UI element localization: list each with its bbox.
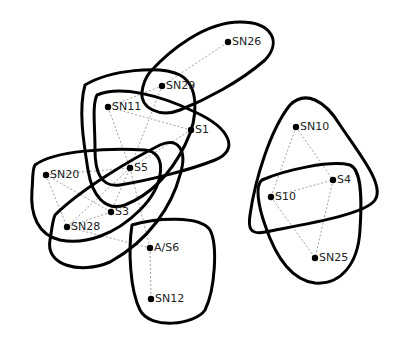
edge-sn10-s4 [296,127,333,180]
node-label-s4: S4 [337,174,351,185]
hyperedge-as6-sn12 [130,219,215,323]
node-label-s3: S3 [115,206,129,217]
node-label-sn29: SN29 [166,80,195,91]
edge-sn10-s10 [271,127,296,197]
node-label-sn25: SN25 [319,252,348,263]
node-dot-s4 [330,177,336,183]
node-label-sn10: SN10 [300,121,329,132]
node-label-sn28: SN28 [71,221,100,232]
node-dot-s1 [188,127,194,133]
node-dot-s5 [127,165,133,171]
node-dot-sn20 [43,172,49,178]
node-label-s10: S10 [275,191,296,202]
node-dot-sn11 [105,104,111,110]
edge-sn11-s5 [108,107,130,168]
node-dot-sn29 [159,83,165,89]
node-label-sn11: SN11 [112,101,141,112]
node-label-as6: A/S6 [154,242,179,253]
hyperedge-layer [32,22,378,323]
node-dot-sn28 [64,224,70,230]
node-label-s1: S1 [195,124,209,135]
node-dot-sn12 [148,296,154,302]
edge-sn20-sn28 [46,175,67,227]
hypergraph-diagram: SN26SN29SN11S1S5SN20S3SN28A/S6SN12SN10S4… [0,0,401,340]
node-label-sn20: SN20 [50,169,79,180]
edge-as6-sn12 [150,248,151,299]
node-label-sn12: SN12 [155,293,184,304]
node-dot-sn25 [312,255,318,261]
node-dot-s10 [268,194,274,200]
node-dot-as6 [147,245,153,251]
node-dot-s3 [108,209,114,215]
node-dot-sn10 [293,124,299,130]
node-label-sn26: SN26 [232,36,261,47]
node-label-s5: S5 [134,162,148,173]
node-dot-sn26 [225,39,231,45]
